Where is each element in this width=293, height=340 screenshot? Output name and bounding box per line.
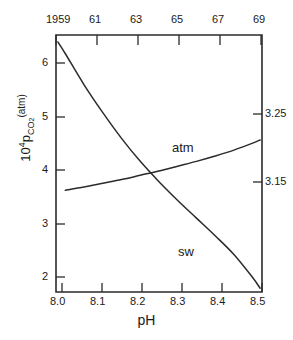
- y-axis-label-p: p: [18, 135, 33, 142]
- left-tick-label-5: 5: [42, 110, 48, 122]
- right-tick-label-325: 3.25: [265, 107, 286, 119]
- y-axis-label: 104pCO2(atm): [16, 58, 36, 198]
- series-line-sw: [58, 42, 260, 288]
- y-axis-label-sub2: 2: [28, 118, 35, 122]
- bottom-axis-ticks: [62, 283, 262, 292]
- top-tick-label-67: 67: [212, 13, 224, 25]
- top-axis-ticks: [56, 35, 261, 45]
- bottom-tick-label-83: 8.3: [170, 295, 185, 307]
- series-annotation-atm: atm: [172, 140, 194, 155]
- left-axis-ticks: [56, 63, 65, 277]
- y-axis-label-sub: CO: [26, 121, 36, 135]
- top-tick-label-69: 69: [253, 13, 265, 25]
- series-annotation-sw: sw: [178, 244, 194, 259]
- top-tick-label-63: 63: [130, 13, 142, 25]
- left-tick-label-4: 4: [42, 163, 48, 175]
- right-axis-ticks: [253, 114, 262, 182]
- bottom-tick-label-84: 8.4: [210, 295, 225, 307]
- y-axis-label-exponent: 4: [17, 142, 27, 147]
- y-axis-label-units: (atm): [16, 94, 27, 117]
- top-tick-label-1959: 1959: [46, 13, 70, 25]
- x-axis-label: pH: [0, 312, 293, 328]
- top-tick-label-65: 65: [171, 13, 183, 25]
- left-tick-label-2: 2: [42, 270, 48, 282]
- axes-border: [56, 35, 262, 292]
- left-tick-label-6: 6: [42, 56, 48, 68]
- right-tick-label-315: 3.15: [265, 175, 286, 187]
- top-tick-label-61: 61: [89, 13, 101, 25]
- bottom-tick-label-81: 8.1: [90, 295, 105, 307]
- bottom-tick-label-80: 8.0: [50, 295, 65, 307]
- chart-figure: 1959 61 63 65 67 69 6 5 4 3 2 3.25 3.15 …: [0, 0, 293, 340]
- bottom-tick-label-82: 8.2: [130, 295, 145, 307]
- series-line-atm: [65, 140, 260, 190]
- plot-frame: [56, 35, 262, 292]
- left-tick-label-3: 3: [42, 217, 48, 229]
- y-axis-label-mantissa: 10: [18, 147, 33, 161]
- bottom-tick-label-85: 8.5: [250, 295, 265, 307]
